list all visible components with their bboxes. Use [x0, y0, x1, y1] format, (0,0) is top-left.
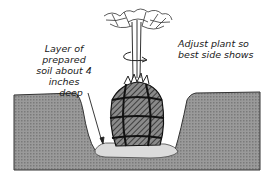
- adjust-plant-label: Adjust plant so best side shows: [178, 38, 254, 60]
- soil-layer-line-2: soil about 4 inches: [22, 65, 106, 87]
- adjust-line-1: Adjust plant so: [178, 38, 254, 49]
- soil-layer-line-3: deep: [22, 87, 106, 98]
- root-ball: [110, 82, 164, 146]
- plant-stems: [132, 20, 141, 78]
- plant-foliage: [104, 9, 172, 29]
- soil-layer-line-1: Layer of prepared: [22, 43, 106, 65]
- adjust-line-2: best side shows: [178, 49, 254, 60]
- pointer-arrow-icon: [88, 93, 104, 144]
- rotate-arrow-icon: [124, 52, 147, 62]
- soil-layer-label: Layer of prepared soil about 4 inches de…: [22, 43, 106, 98]
